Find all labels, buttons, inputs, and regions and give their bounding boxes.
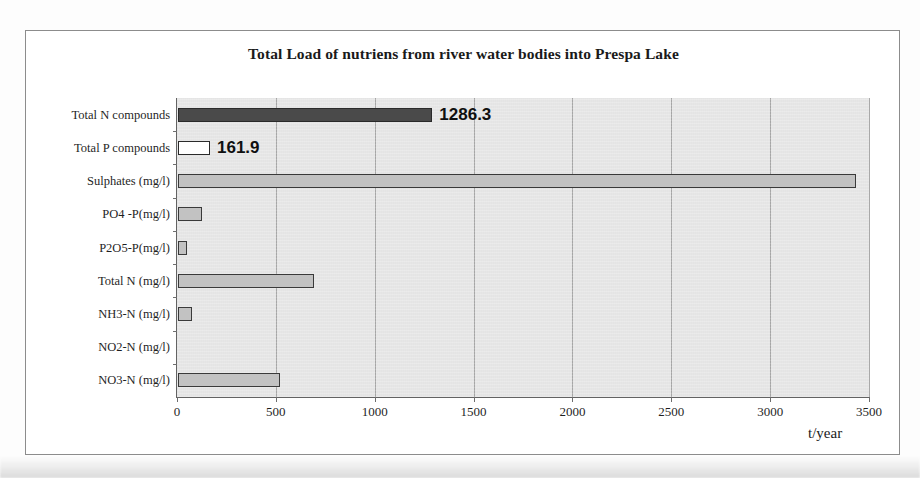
y-axis-category-label: NO3-N (mg/l)	[98, 373, 170, 388]
y-axis-tick	[173, 264, 177, 265]
y-axis-tick	[173, 364, 177, 365]
y-axis-category-label: Total N compounds	[72, 107, 170, 122]
x-axis-tick-label: 2500	[658, 404, 684, 420]
bar	[178, 141, 210, 155]
y-axis-category-label: NH3-N (mg/l)	[98, 306, 170, 321]
bar	[178, 307, 192, 321]
y-axis-category-label: Sulphates (mg/l)	[87, 174, 170, 189]
x-axis-tick	[671, 397, 672, 402]
x-axis-tick-label: 500	[266, 404, 286, 420]
x-axis-tick-label: 0	[174, 404, 181, 420]
y-axis-category-label: Total N (mg/l)	[98, 273, 170, 288]
x-gridline	[572, 98, 573, 397]
x-axis-tick-label: 1500	[461, 404, 487, 420]
y-axis-category-label: PO4 -P(mg/l)	[102, 207, 170, 222]
x-gridline	[671, 98, 672, 397]
x-axis-tick	[474, 397, 475, 402]
x-axis-tick-label: 2000	[559, 404, 585, 420]
x-axis-tick	[869, 397, 870, 402]
y-axis-category-label: NO2-N (mg/l)	[98, 340, 170, 355]
x-axis-tick	[177, 397, 178, 402]
bar	[178, 108, 432, 122]
x-gridline	[770, 98, 771, 397]
x-gridline	[474, 98, 475, 397]
chart-title: Total Load of nutriens from river water …	[26, 45, 901, 63]
y-axis-tick	[173, 131, 177, 132]
bar	[178, 274, 314, 288]
bar	[178, 241, 187, 255]
y-axis-tick	[173, 231, 177, 232]
bar-value-label: 161.9	[217, 138, 260, 158]
bar	[178, 174, 856, 188]
bar-value-label: 1286.3	[439, 105, 491, 125]
y-axis-tick	[173, 297, 177, 298]
y-axis-category-label: P2O5-P(mg/l)	[99, 240, 170, 255]
x-gridline	[869, 98, 870, 397]
x-axis-tick	[375, 397, 376, 402]
y-axis-tick	[173, 331, 177, 332]
chart-frame: Total Load of nutriens from river water …	[25, 30, 900, 455]
plot-area: 0500100015002000250030003500Total N comp…	[176, 98, 869, 398]
x-axis-tick	[770, 397, 771, 402]
x-axis-title: t/year	[808, 425, 842, 442]
x-axis-tick-label: 1000	[362, 404, 388, 420]
y-axis-category-label: Total P compounds	[74, 140, 170, 155]
x-axis-tick-label: 3000	[757, 404, 783, 420]
scan-artifact	[0, 456, 920, 478]
y-axis-tick	[173, 164, 177, 165]
x-axis-tick	[276, 397, 277, 402]
x-gridline	[375, 98, 376, 397]
x-gridline	[276, 98, 277, 397]
bar	[178, 373, 280, 387]
y-axis-tick	[173, 198, 177, 199]
x-axis-tick-label: 3500	[856, 404, 882, 420]
scanned-page: Total Load of nutriens from river water …	[0, 0, 920, 478]
x-axis-tick	[572, 397, 573, 402]
bar	[178, 207, 202, 221]
